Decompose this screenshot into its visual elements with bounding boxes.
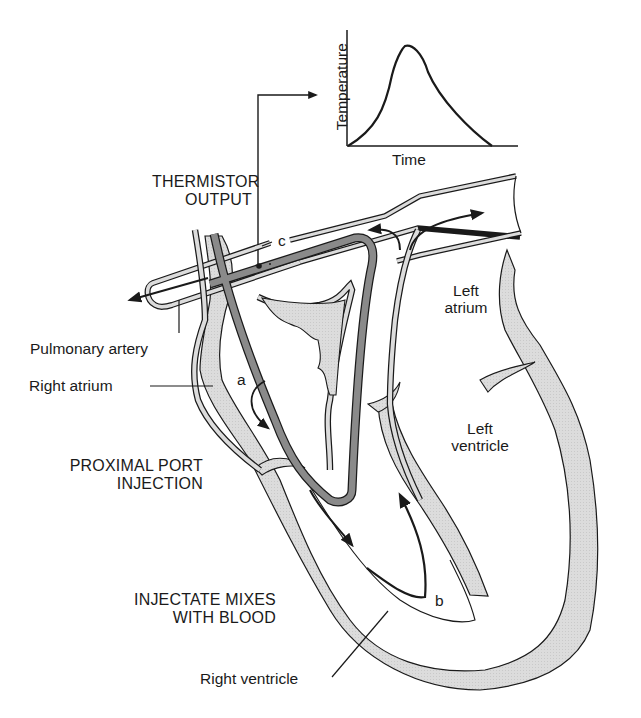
label-thermistor-output: THERMISTOR OUTPUT	[152, 173, 252, 209]
label-b: b	[435, 592, 444, 609]
atrial-septum-ridge	[262, 298, 345, 395]
thermistor-tip	[256, 263, 262, 269]
thermodilution-curve	[348, 46, 492, 146]
label-c: c	[278, 232, 286, 249]
label-injectate-line2: WITH BLOOD	[60, 609, 276, 627]
label-a: a	[237, 371, 246, 388]
label-right-atrium: Right atrium	[29, 377, 113, 394]
label-left-ventricle-line1: Left	[440, 420, 520, 437]
mitral-valve	[480, 362, 535, 392]
label-injectate-line1: INJECTATE MIXES	[60, 591, 276, 609]
aortic-leaflet	[368, 382, 400, 412]
graph-x-label: Time	[392, 151, 426, 168]
label-left-ventricle: Left ventricle	[440, 420, 520, 455]
label-right-ventricle: Right ventricle	[200, 670, 298, 687]
label-left-atrium-line2: atrium	[431, 299, 501, 316]
label-left-atrium: Left atrium	[431, 282, 501, 317]
vessel-opening	[514, 176, 521, 233]
graph-y-label: Temperature	[333, 32, 350, 142]
inset-graph	[347, 30, 518, 146]
flow-arrow-b	[367, 495, 426, 597]
label-thermistor-line1: THERMISTOR	[152, 173, 252, 191]
label-left-ventricle-line2: ventricle	[440, 437, 520, 454]
label-injectate-mixes: INJECTATE MIXES WITH BLOOD	[60, 591, 276, 627]
label-proximal-line1: PROXIMAL PORT	[20, 457, 203, 475]
heart-thermodilution-diagram: Temperature Time THERMISTOR OUTPUT c Pul…	[0, 0, 641, 718]
label-proximal-port-injection: PROXIMAL PORT INJECTION	[20, 457, 203, 493]
label-left-atrium-line1: Left	[431, 282, 501, 299]
label-proximal-line2: INJECTION	[20, 475, 203, 493]
label-pulmonary-artery: Pulmonary artery	[30, 340, 148, 357]
label-thermistor-line2: OUTPUT	[152, 191, 252, 209]
